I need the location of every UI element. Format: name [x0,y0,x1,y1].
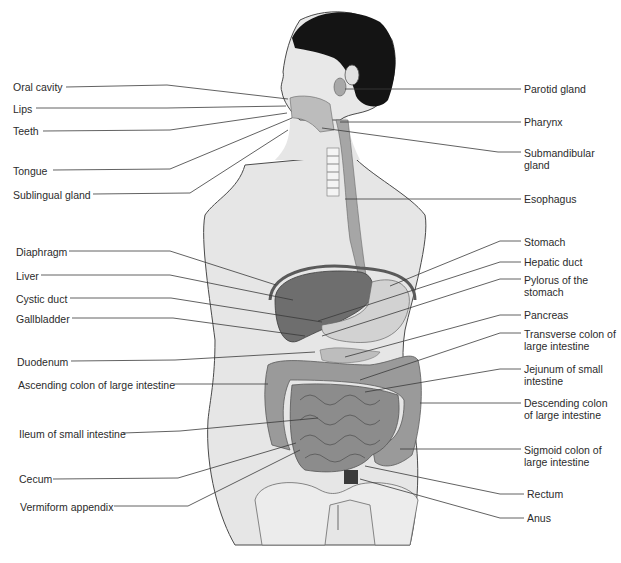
label-liver: Liver [16,270,39,282]
label-jejunum-of-small-intestine: Jejunum of small intestine [524,363,619,387]
label-descending-colon-of-large-intestine: Descending colon of large intestine [524,397,619,421]
leader-line [53,118,292,170]
label-pancreas: Pancreas [524,309,619,321]
label-submandibular-gland: Submandibular gland [524,147,619,171]
label-sigmoid-colon-of-large-intestine: Sigmoid colon of large intestine [524,444,619,468]
label-lips: Lips [13,103,32,115]
label-transverse-colon-of-large-intestine: Transverse colon of large intestine [524,328,619,352]
label-vermiform-appendix: Vermiform appendix [20,501,113,513]
label-gallbladder: Gallbladder [16,313,70,325]
trachea [327,148,339,196]
label-teeth: Teeth [13,125,39,137]
label-cecum: Cecum [19,473,52,485]
label-tongue: Tongue [13,165,47,177]
rectum [344,470,358,484]
leader-line [43,113,287,131]
parotid-gland [334,78,346,96]
label-diaphragm: Diaphragm [16,246,67,258]
leader-line [36,106,286,108]
label-rectum: Rectum [527,488,621,500]
label-sublingual-gland: Sublingual gland [13,189,91,201]
label-ascending-colon-of-large-intestine: Ascending colon of large intestine [18,379,175,391]
leader-line [66,85,288,99]
label-parotid-gland: Parotid gland [524,83,619,95]
label-oral-cavity: Oral cavity [13,81,63,93]
label-duodenum: Duodenum [17,356,68,368]
ear [345,65,359,85]
label-cystic-duct: Cystic duct [16,293,67,305]
label-pharynx: Pharynx [524,116,619,128]
label-anus: Anus [527,512,621,524]
label-ileum-of-small-intestine: Ileum of small intestine [19,428,126,440]
label-pylorus-of-the-stomach: Pylorus of the stomach [524,274,619,298]
label-stomach: Stomach [524,236,619,248]
label-esophagus: Esophagus [524,193,619,205]
label-hepatic-duct: Hepatic duct [524,256,619,268]
